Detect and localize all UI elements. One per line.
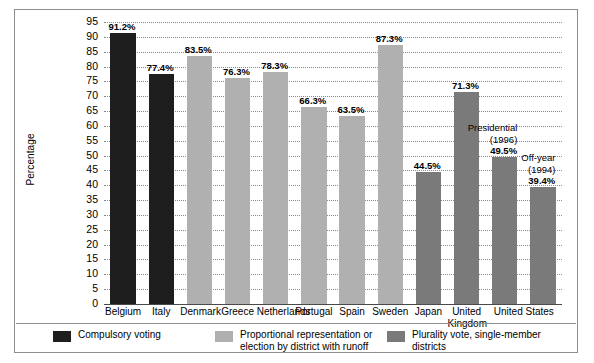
x-tick-label: Portugal xyxy=(295,306,333,318)
x-tick-label: United Kingdom xyxy=(448,306,486,330)
bar-value-label: 66.3% xyxy=(299,95,326,106)
legend-label-line: Compulsory voting xyxy=(78,329,161,341)
y-tick-label: 75 xyxy=(78,74,98,87)
bar-annotation: Off-year(1994) xyxy=(484,152,555,175)
x-tick-label: Sweden xyxy=(371,306,409,318)
x-tick-label: Spain xyxy=(333,306,371,318)
x-tick-label: United States xyxy=(486,306,562,318)
bar xyxy=(263,72,288,304)
bar-value-label: 39.4% xyxy=(528,175,555,186)
legend-label-line: Proportional representation or xyxy=(240,329,372,341)
legend-item[interactable]: Plurality vote, single-member districts xyxy=(387,329,577,353)
y-tick-label: 35 xyxy=(78,193,98,206)
y-tick-label: 90 xyxy=(78,30,98,43)
bar xyxy=(492,157,517,304)
plot-area: Percentage 95908580757065605550454035302… xyxy=(78,22,562,304)
x-tick-label: Netherlands xyxy=(257,306,295,318)
legend-swatch xyxy=(387,331,405,342)
chart-legend: Compulsory votingProportional representa… xyxy=(15,329,577,353)
legend-item[interactable]: Proportional representation orelection b… xyxy=(215,329,372,353)
y-tick-label: 5 xyxy=(78,282,98,295)
legend-swatch xyxy=(53,331,71,342)
bar xyxy=(530,187,555,304)
bar xyxy=(187,56,212,304)
y-tick-label: 40 xyxy=(78,178,98,191)
y-tick-label: 60 xyxy=(78,119,98,132)
y-tick-label: 0 xyxy=(78,297,98,310)
x-axis-line xyxy=(104,304,562,305)
y-tick-label: 85 xyxy=(78,45,98,58)
x-tick-label: Denmark xyxy=(180,306,218,318)
bar xyxy=(110,33,135,304)
bar-value-label: 63.5% xyxy=(337,104,364,115)
y-tick-label: 20 xyxy=(78,238,98,251)
bar-annotation-line: Presidential xyxy=(446,122,517,134)
bar-value-label: 76.3% xyxy=(223,66,250,77)
legend-label-line: Plurality vote, single-member districts xyxy=(412,329,577,353)
y-tick-label: 25 xyxy=(78,223,98,236)
y-axis-title: Percentage xyxy=(25,80,36,240)
bar-annotation-line: (1996) xyxy=(446,134,517,146)
bar xyxy=(301,107,326,304)
y-tick-label: 55 xyxy=(78,134,98,147)
legend-label: Compulsory voting xyxy=(78,329,161,341)
bar-value-label: 87.3% xyxy=(376,33,403,44)
y-tick-label: 65 xyxy=(78,104,98,117)
legend-label-line: election by district with runoff xyxy=(240,341,372,353)
y-tick-label: 70 xyxy=(78,89,98,102)
y-tick-label: 50 xyxy=(78,149,98,162)
legend-item[interactable]: Compulsory voting xyxy=(53,329,161,342)
y-tick-label: 95 xyxy=(78,15,98,28)
bar-value-label: 77.4% xyxy=(147,62,174,73)
bar-value-label: 91.2% xyxy=(108,21,135,32)
bar-value-label: 71.3% xyxy=(452,80,479,91)
bar-annotation-line: Off-year xyxy=(484,152,555,164)
chart-figure: Percentage 95908580757065605550454035302… xyxy=(14,9,578,353)
y-tick-label: 15 xyxy=(78,252,98,265)
bar xyxy=(378,45,403,304)
bar-value-label: 44.5% xyxy=(414,160,441,171)
legend-swatch xyxy=(215,331,233,342)
y-tick-label: 45 xyxy=(78,163,98,176)
bar-series: 91.2%77.4%83.5%76.3%78.3%66.3%63.5%87.3%… xyxy=(104,22,562,304)
legend-label: Plurality vote, single-member districts xyxy=(412,329,577,353)
bar-value-label: 83.5% xyxy=(185,44,212,55)
bar xyxy=(339,116,364,304)
legend-label: Proportional representation orelection b… xyxy=(240,329,372,353)
x-tick-label: Italy xyxy=(142,306,180,318)
bar-annotation-line: (1994) xyxy=(484,164,555,176)
y-tick-label: 10 xyxy=(78,267,98,280)
y-tick-label: 30 xyxy=(78,208,98,221)
bar xyxy=(225,78,250,304)
x-tick-label: Greece xyxy=(219,306,257,318)
x-tick-label: Belgium xyxy=(104,306,142,318)
bar xyxy=(416,172,441,304)
bar-annotation: Presidential(1996) xyxy=(446,122,517,145)
bar-value-label: 78.3% xyxy=(261,60,288,71)
legend-divider xyxy=(16,323,576,324)
bar xyxy=(149,74,174,304)
y-tick-label: 80 xyxy=(78,60,98,73)
x-tick-label: Japan xyxy=(409,306,447,318)
